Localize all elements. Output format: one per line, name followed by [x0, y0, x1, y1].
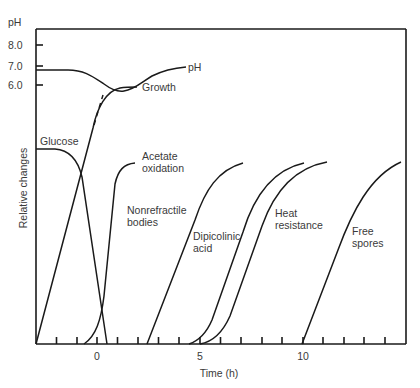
heat-label-2: resistance — [275, 219, 323, 231]
acetate-label-2: oxidation — [142, 162, 184, 174]
glucose-label: Glucose — [40, 135, 79, 147]
x-axis-title: Time (h) — [200, 367, 239, 379]
x-tick-0: 0 — [94, 350, 100, 362]
x-tick-10: 10 — [297, 350, 309, 362]
dipicolinic-label-2: acid — [193, 242, 212, 254]
ph-tick-7: 7.0 — [8, 60, 23, 72]
dipicolinic-label-1: Dipicolinic — [193, 230, 240, 242]
free-spores-curve — [302, 162, 401, 344]
ph-axis-label: pH — [8, 16, 21, 28]
nonrefractile-label-1: Nonrefractile — [127, 204, 187, 216]
growth-label: Growth — [142, 81, 176, 93]
ph-curve-label: pH — [188, 61, 201, 73]
glucose-curve — [36, 149, 107, 344]
acetate-label-1: Acetate — [142, 150, 178, 162]
growth-curve — [36, 87, 137, 344]
free-spores-label-1: Free — [352, 225, 374, 237]
ph-tick-8: 8.0 — [8, 39, 23, 51]
ph-ticks — [36, 45, 43, 85]
free-spores-label-2: spores — [352, 237, 384, 249]
ph-tick-6: 6.0 — [8, 79, 23, 91]
sporulation-chart: pH 8.0 7.0 6.0 0 5 10 Time (h) Relative … — [0, 0, 420, 388]
x-tick-5: 5 — [197, 350, 203, 362]
acetate-oxidation-curve — [84, 163, 135, 344]
heat-label-1: Heat — [275, 207, 297, 219]
nonrefractile-label-2: bodies — [127, 216, 158, 228]
y-axis-title: Relative changes — [17, 148, 29, 229]
